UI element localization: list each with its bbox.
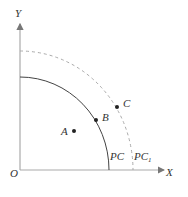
pc1-label: PC1 — [133, 150, 152, 164]
point-c-label: C — [123, 97, 131, 109]
point-c — [115, 105, 119, 109]
point-b-label: B — [102, 111, 109, 123]
y-axis-label: Y — [15, 7, 23, 19]
point-a-label: A — [60, 125, 68, 137]
ppf-diagram: Y X O A B C PC PC1 — [0, 0, 188, 197]
origin-label: O — [10, 167, 18, 179]
pc1-label-subscript: 1 — [148, 156, 152, 164]
pc-curve — [20, 77, 109, 170]
point-b — [94, 118, 98, 122]
pc-label: PC — [109, 150, 125, 162]
x-axis-label: X — [165, 166, 174, 178]
pc-label-text: PC — [109, 150, 125, 162]
pc1-label-text: PC — [133, 150, 149, 162]
point-a — [72, 129, 76, 133]
